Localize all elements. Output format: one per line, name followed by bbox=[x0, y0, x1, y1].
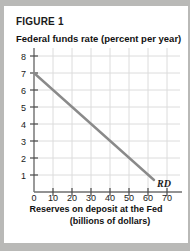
y-tick-label: 6 bbox=[21, 86, 26, 96]
y-tick-label: 5 bbox=[21, 103, 26, 113]
x-axis-title: Reserves on deposit at the Fed (billions… bbox=[4, 204, 188, 227]
x-axis-title-line1: Reserves on deposit at the Fed bbox=[29, 204, 162, 214]
x-tick-label: 40 bbox=[105, 193, 115, 201]
x-tick-label: 60 bbox=[143, 193, 153, 201]
curve-label-rd: RD bbox=[156, 178, 171, 189]
y-tick-label: 2 bbox=[21, 154, 26, 164]
y-tick-label: 8 bbox=[21, 52, 26, 62]
figure-title: FIGURE 1 bbox=[16, 16, 64, 27]
x-axis-title-line2: (billions of dollars) bbox=[4, 216, 188, 228]
y-tick-label: 1 bbox=[21, 171, 26, 181]
y-tick-label: 7 bbox=[21, 69, 26, 79]
figure-card: FIGURE 1 Federal funds rate (percent per… bbox=[4, 6, 188, 243]
plot-area: 8 7 6 5 4 3 2 1 0 10 bbox=[4, 46, 188, 201]
x-tick-label: 30 bbox=[86, 193, 96, 201]
y-axis-title: Federal funds rate (percent per year) bbox=[16, 33, 181, 44]
chart-svg: 8 7 6 5 4 3 2 1 0 10 bbox=[4, 46, 188, 201]
x-tick-label: 20 bbox=[67, 193, 77, 201]
y-tick-label: 4 bbox=[21, 120, 26, 130]
x-tick-label: 70 bbox=[162, 193, 172, 201]
y-tick-label: 3 bbox=[21, 137, 26, 147]
x-tick-label: 10 bbox=[48, 193, 58, 201]
x-tick-label: 0 bbox=[31, 193, 36, 201]
x-tick-label: 50 bbox=[124, 193, 134, 201]
